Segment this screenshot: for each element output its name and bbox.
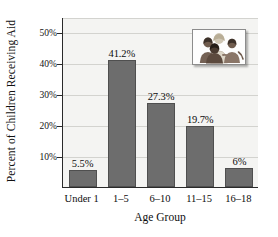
y-tick-label: 40% xyxy=(26,60,57,69)
x-axis-tick-labels: Under 11–56–1011–1516–18 xyxy=(62,192,258,208)
bar-chart-figure: Percent of Children Receiving Aid 10%20%… xyxy=(0,0,278,237)
x-axis-title: Age Group xyxy=(62,210,258,224)
x-tick-label: 16–18 xyxy=(212,192,264,205)
bar-value-label: 41.2% xyxy=(96,48,148,59)
children-illustration-icon xyxy=(193,30,245,64)
y-tick-label: 20% xyxy=(26,122,57,131)
bar-value-label: 19.7% xyxy=(174,114,226,125)
bar-value-label: 27.3% xyxy=(135,91,187,102)
y-tick-label: 30% xyxy=(26,91,57,100)
y-tick-label: 50% xyxy=(26,29,57,38)
bar xyxy=(69,170,97,187)
children-photo-inset xyxy=(192,29,246,65)
bar-value-label: 6% xyxy=(213,156,265,167)
bar xyxy=(147,103,175,187)
bar xyxy=(225,168,253,187)
y-axis-tick-labels: 10%20%30%40%50% xyxy=(26,0,57,237)
y-axis-title: Percent of Children Receiving Aid xyxy=(3,6,19,196)
bar xyxy=(108,60,136,187)
y-tick-label: 10% xyxy=(26,153,57,162)
bar xyxy=(186,126,214,187)
bar-value-label: 5.5% xyxy=(57,158,109,169)
